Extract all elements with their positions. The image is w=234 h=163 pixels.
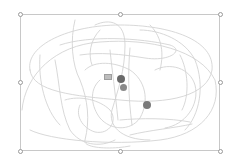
resize-handle-middle-right[interactable] xyxy=(218,80,223,85)
resize-handle-bottom-right[interactable] xyxy=(218,149,223,154)
control-point-dot-2[interactable] xyxy=(120,84,127,91)
resize-handle-bottom-left[interactable] xyxy=(18,149,23,154)
anchor-square-marker[interactable] xyxy=(104,74,112,80)
resize-handle-top-right[interactable] xyxy=(218,12,223,17)
resize-handle-top-left[interactable] xyxy=(18,12,23,17)
resize-handle-top-middle[interactable] xyxy=(118,12,123,17)
control-point-dot-3[interactable] xyxy=(143,101,151,109)
resize-handle-bottom-middle[interactable] xyxy=(118,149,123,154)
control-point-dot-1[interactable] xyxy=(117,75,125,83)
resize-handle-middle-left[interactable] xyxy=(18,80,23,85)
